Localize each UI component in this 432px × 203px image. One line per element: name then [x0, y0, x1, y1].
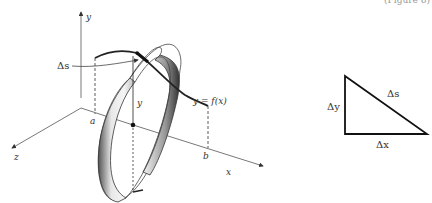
x-axis-label: x	[226, 167, 231, 177]
delta-s-label: Δs	[57, 60, 69, 71]
axis-point	[131, 123, 136, 128]
triangle-hypotenuse-label: Δs	[387, 88, 399, 99]
triangle-horizontal-label: Δx	[376, 139, 389, 150]
y-axis-label: y	[85, 12, 92, 22]
axes	[12, 12, 263, 166]
revolution-band	[98, 44, 181, 202]
z-axis-label: z	[13, 152, 19, 162]
z-axis	[12, 108, 81, 148]
delta-s-pointer	[72, 60, 138, 66]
surface-of-revolution-diagram: y z x Δs y y = f(x) a b Δs Δy Δx	[0, 0, 432, 203]
point-a-label: a	[90, 116, 95, 126]
curve-fx	[95, 51, 208, 106]
right-triangle: Δs Δy Δx	[327, 76, 427, 150]
height-y-label: y	[136, 98, 143, 108]
curve-label: y = f(x)	[192, 96, 227, 106]
triangle-vertical-label: Δy	[327, 101, 340, 112]
point-b-label: b	[203, 151, 209, 161]
